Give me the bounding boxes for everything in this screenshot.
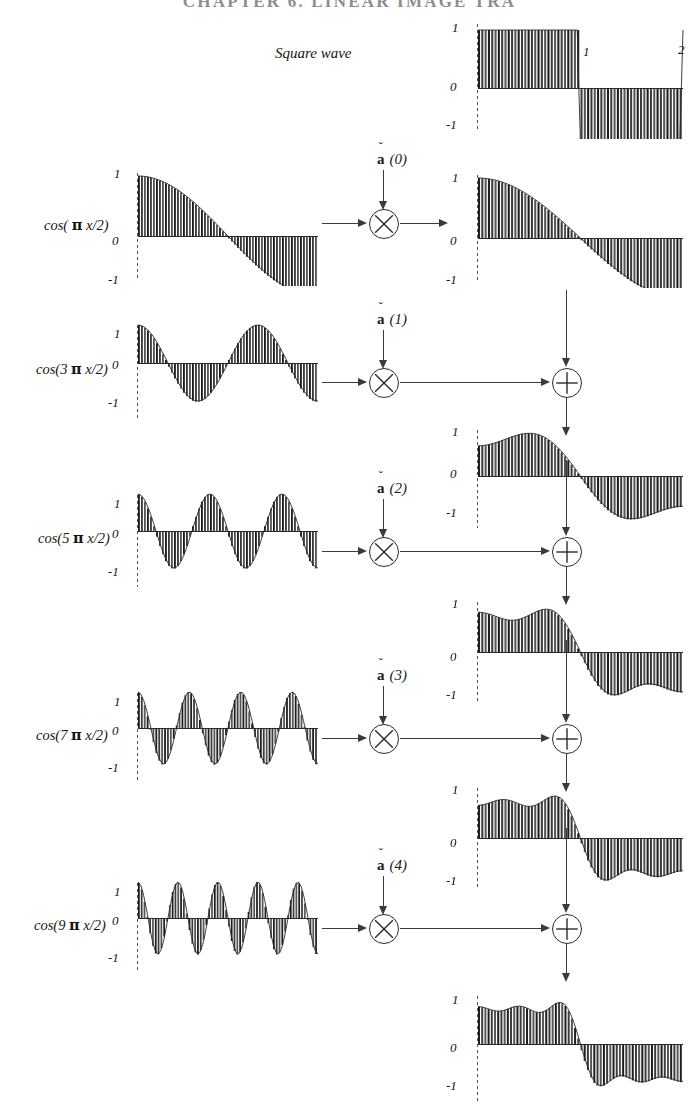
basis-label-7: cos(7 π x/2): [36, 726, 108, 744]
ytick-top-row2-left: 1: [114, 326, 121, 342]
running-head: CHAPTER 6. LINEAR IMAGE TRA: [0, 0, 699, 8]
multiply-operator-4[interactable]: [369, 914, 399, 944]
arrowhead-sum-in-3: [541, 734, 550, 742]
coefficient-label-3: ˇa(3): [377, 668, 407, 683]
ytick-top-row1-right: 1: [452, 170, 459, 186]
wire-coef-to-mult-3: [383, 686, 384, 719]
wire-top-to-sum-2: [566, 460, 567, 529]
wire-coef-to-mult-1: [383, 330, 384, 363]
wire-top-to-sum-1: [566, 290, 567, 360]
multiply-operator-1[interactable]: [369, 368, 399, 398]
wire-mult-to-plot-0: [400, 223, 442, 224]
wire-mult-to-sum-3: [400, 738, 545, 739]
arrowhead-sum-in-4: [541, 924, 550, 932]
wire-coef-to-mult-4: [383, 876, 384, 909]
basis-label-3: cos(3 π x/2): [36, 360, 108, 378]
ytick-bottom-row1-left: -1: [108, 272, 119, 288]
ytick-zero-row4-left: 0: [112, 723, 119, 739]
plot-partial-sum-1: [470, 418, 685, 536]
basis-label-1: cos( π x/2): [44, 216, 109, 234]
figure-title: Square wave: [275, 45, 352, 62]
ytick-top-row3-right: 1: [452, 596, 459, 612]
arrowhead-sum-out-4: [562, 973, 570, 982]
ytick-zero-row5-left: 0: [112, 913, 119, 929]
ytick-bottom-row3-left: -1: [108, 564, 119, 580]
arrowhead-out-0: [439, 219, 448, 227]
arrowhead-top-sum-3: [562, 714, 570, 723]
basis-label-9: cos(9 π x/2): [34, 916, 106, 934]
ytick-bottom-row2-right: -1: [446, 505, 457, 521]
ytick-zero-row4-right: 0: [450, 835, 457, 851]
wire-basis-to-mult-3: [322, 738, 360, 739]
wire-basis-to-mult-2: [322, 551, 360, 552]
figure-page: CHAPTER 6. LINEAR IMAGE TRA Square wave …: [0, 0, 699, 1119]
ytick-bottom-row2-left: -1: [108, 395, 119, 411]
wire-coef-to-mult-2: [383, 499, 384, 532]
basis-label-5: cos(5 π x/2): [38, 529, 110, 547]
ytick-bottom-row5-left: -1: [108, 950, 119, 966]
ytick-zero-row3-left: 0: [112, 526, 119, 542]
wire-basis-to-mult-4: [322, 928, 360, 929]
coefficient-label-1: ˇa(1): [377, 312, 407, 327]
ytick-bottom-row4-right: -1: [446, 873, 457, 889]
ytick-bottom-row3-right: -1: [446, 687, 457, 703]
plot-basis-cos-7: [130, 689, 320, 789]
plot-partial-sum-2: [470, 590, 685, 708]
arrowhead-sum-in-1: [541, 378, 550, 386]
ytick-bottom-row4-left: -1: [108, 760, 119, 776]
arrowhead-in-2: [358, 547, 367, 555]
arrowhead-in-4: [358, 924, 367, 932]
add-operator-1[interactable]: [552, 368, 582, 398]
arrowhead-in-1: [358, 378, 367, 386]
ytick-bottom-row5-right: -1: [446, 1078, 457, 1094]
ytick-top-row4-left: 1: [114, 694, 121, 710]
ytick-zero-row5-right: 0: [450, 1040, 457, 1056]
plot-basis-cos-1: [130, 161, 320, 286]
arrowhead-top-sum-1: [562, 358, 570, 367]
wire-basis-to-mult-1: [322, 382, 360, 383]
arrowhead-in-3: [358, 734, 367, 742]
ytick-top-row4-right: 1: [452, 782, 459, 798]
ytick-top-row5-left: 1: [114, 884, 121, 900]
wire-coef-to-mult-0: [383, 170, 384, 204]
plot-square-wave: [470, 14, 685, 139]
arrowhead-top-sum-2: [562, 527, 570, 536]
ytick-zero-row1-left: 0: [112, 233, 119, 249]
wire-mult-to-sum-4: [400, 928, 545, 929]
wire-top-to-sum-3: [566, 640, 567, 716]
coefficient-label-4: ˇa(4): [377, 858, 407, 873]
ytick-zero-row3-right: 0: [450, 649, 457, 665]
ytick-top-row1-left: 1: [114, 166, 121, 182]
ytick-top-row2-right: 1: [452, 424, 459, 440]
ytick-top-row0: 1: [452, 20, 459, 36]
ytick-zero-row2-left: 0: [112, 357, 119, 373]
arrowhead-top-sum-4: [562, 904, 570, 913]
ytick-zero-row2-right: 0: [450, 466, 457, 482]
plot-partial-sum-4: [470, 986, 685, 1108]
add-operator-2[interactable]: [552, 537, 582, 567]
wire-top-to-sum-4: [566, 828, 567, 906]
ytick-bottom-row0: -1: [446, 117, 457, 133]
add-operator-4[interactable]: [552, 914, 582, 944]
ytick-zero-row0: 0: [450, 79, 457, 95]
wire-sum-out-4: [566, 944, 567, 976]
plot-basis-cos-5: [130, 491, 320, 593]
plot-scaled-cos-1: [470, 163, 685, 288]
multiply-operator-0[interactable]: [369, 209, 399, 239]
plot-basis-cos-9: [130, 879, 320, 979]
plot-basis-cos-3: [130, 321, 320, 426]
add-operator-3[interactable]: [552, 724, 582, 754]
plot-partial-sum-3: [470, 776, 685, 894]
wire-basis-to-mult-0: [322, 223, 360, 224]
ytick-zero-row1-right: 0: [450, 233, 457, 249]
ytick-bottom-row1-right: -1: [446, 272, 457, 288]
coefficient-label-2: ˇa(2): [377, 481, 407, 496]
coefficient-label-0: ˇa(0): [377, 152, 407, 167]
wire-mult-to-sum-2: [400, 551, 545, 552]
arrowhead-sum-in-2: [541, 547, 550, 555]
ytick-top-row5-right: 1: [452, 992, 459, 1008]
arrowhead-in-0: [358, 219, 367, 227]
multiply-operator-2[interactable]: [369, 537, 399, 567]
multiply-operator-3[interactable]: [369, 724, 399, 754]
ytick-top-row3-left: 1: [114, 496, 121, 512]
